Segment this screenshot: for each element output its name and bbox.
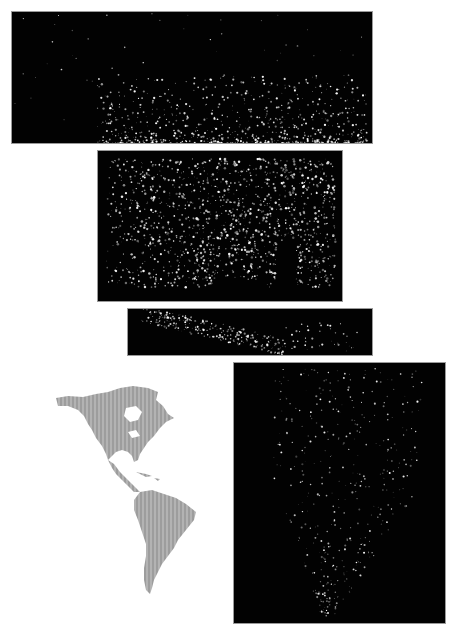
americas-landmass: [28, 380, 218, 605]
central-america-night-panel: Mexico, Central America and Caribbean at…: [127, 308, 373, 356]
south-america-night-panel: South America at night: [233, 362, 446, 624]
city-lights-south-america: [234, 363, 445, 623]
city-lights-canada: [12, 12, 372, 143]
americas-locator-map: Locator map of North and South America: [28, 380, 218, 605]
city-lights-central-america: [128, 309, 372, 355]
city-lights-usa: [98, 151, 342, 301]
usa-night-panel: Contiguous United States at night: [97, 150, 343, 302]
canada-alaska-night-panel: Canada and Alaska at night: [11, 11, 373, 144]
